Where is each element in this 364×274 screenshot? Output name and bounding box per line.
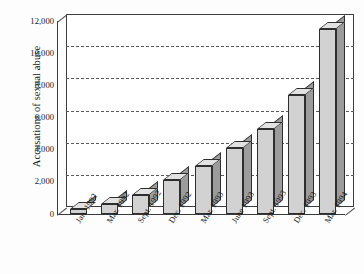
y-tick-label: 0 (12, 209, 54, 219)
y-tick-label: 12,000 (12, 16, 54, 26)
y-tick-label: 10,000 (12, 48, 54, 58)
y-tick-label: 8,000 (12, 80, 54, 90)
bar-front-face (288, 95, 305, 214)
x-axis-tick-labels: Jan. 1992Mar. 1992Sept. 1992Dec. 1992Mar… (57, 214, 357, 274)
bar-side-face (336, 15, 345, 207)
bar-side-face (305, 81, 314, 207)
bar-series (57, 14, 354, 216)
plot-area (57, 14, 354, 216)
y-axis-tick-labels: 02,0004,0006,0008,00010,00012,000 (0, 0, 54, 274)
bar-front-face (319, 29, 336, 214)
bar-chart: Accusations of sexual abuse 02,0004,0006… (0, 0, 364, 274)
y-tick-label: 6,000 (12, 112, 54, 122)
y-tick-label: 4,000 (12, 144, 54, 154)
y-tick-label: 2,000 (12, 176, 54, 186)
bar (288, 95, 305, 214)
bar (319, 29, 336, 214)
